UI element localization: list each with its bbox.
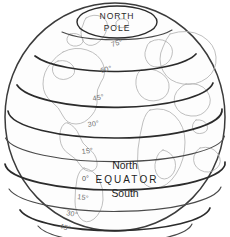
north-pole-label-line1: NORTH	[100, 11, 135, 21]
lat-label-15-north: 15°	[81, 146, 93, 156]
globe-drawing: NORTH POLE 75° 60° 45° 30° 15° 0° 15° 30…	[0, 0, 230, 237]
equator-label: EQUATOR	[95, 174, 158, 185]
north-hemisphere-label: North	[112, 160, 138, 171]
lat-label-15-south: 15°	[77, 192, 90, 203]
lat-label-45-south: 45°	[58, 221, 72, 233]
lat-label-30-north: 30°	[87, 118, 100, 129]
globe-latitude-diagram: NORTH POLE 75° 60° 45° 30° 15° 0° 15° 30…	[0, 0, 230, 237]
north-pole-label-line2: POLE	[104, 23, 131, 33]
lat-label-0-equator: 0°	[82, 174, 89, 183]
south-hemisphere-label: South	[111, 188, 138, 199]
